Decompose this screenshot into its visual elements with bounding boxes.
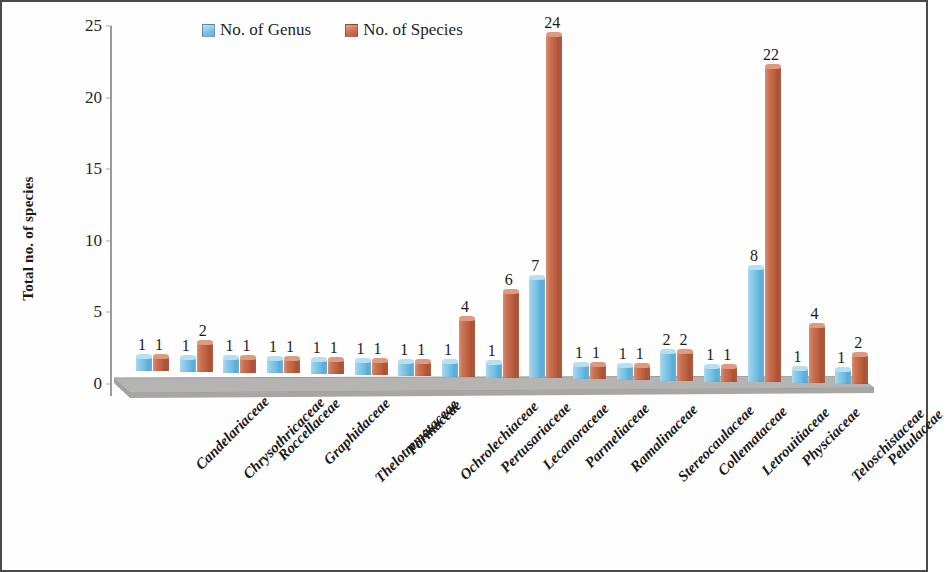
bar-genus[interactable] xyxy=(704,367,720,381)
bar-top-cap xyxy=(311,357,327,362)
bar-group: 822 xyxy=(746,26,791,384)
bar-top-cap xyxy=(398,359,414,364)
bar-top-cap xyxy=(180,355,196,360)
bar-species[interactable] xyxy=(240,358,256,372)
bar-group: 12 xyxy=(178,26,223,384)
bar-value-label: 8 xyxy=(742,248,766,264)
bar-group: 14 xyxy=(440,26,485,384)
bar-species[interactable] xyxy=(765,67,781,382)
bar-group: 11 xyxy=(615,26,660,384)
bar-top-cap xyxy=(546,32,562,37)
bar-series-container: 111211111111111416724111122118221412 xyxy=(114,26,874,384)
bar-genus[interactable] xyxy=(529,278,545,378)
bar-value-label: 1 xyxy=(322,340,346,356)
bar-group: 14 xyxy=(790,26,835,384)
bar-species[interactable] xyxy=(677,352,693,381)
bar-genus[interactable] xyxy=(398,362,414,376)
bar-species[interactable] xyxy=(415,362,431,376)
bar-genus[interactable] xyxy=(617,366,633,380)
bar-value-label: 1 xyxy=(584,345,608,361)
bar-species[interactable] xyxy=(546,35,562,379)
bar-top-cap xyxy=(240,355,256,360)
bar-species[interactable] xyxy=(197,343,213,372)
bar-value-label: 6 xyxy=(497,272,521,288)
bar-species[interactable] xyxy=(153,357,169,371)
y-axis-tick-label: 15 xyxy=(54,159,102,179)
bar-group: 11 xyxy=(571,26,616,384)
bar-genus[interactable] xyxy=(180,358,196,372)
bar-value-label: 2 xyxy=(846,335,870,351)
bar-top-cap xyxy=(223,355,239,360)
bar-top-cap xyxy=(529,275,545,280)
bar-genus[interactable] xyxy=(573,365,589,379)
bar-genus[interactable] xyxy=(792,369,808,383)
bar-value-label: 1 xyxy=(829,350,853,366)
bar-species[interactable] xyxy=(634,366,650,380)
bar-genus[interactable] xyxy=(223,358,239,372)
y-axis-tick-label: 20 xyxy=(54,88,102,108)
bar-top-cap xyxy=(590,362,606,367)
bar-genus[interactable] xyxy=(660,352,676,381)
bar-top-cap xyxy=(660,349,676,354)
y-axis-title: Total no. of species xyxy=(20,149,37,329)
bar-genus[interactable] xyxy=(311,360,327,374)
bar-genus[interactable] xyxy=(835,370,851,384)
bar-genus[interactable] xyxy=(136,357,152,371)
bar-top-cap xyxy=(748,265,764,270)
bar-top-cap xyxy=(704,364,720,369)
bar-genus[interactable] xyxy=(748,268,764,383)
bar-value-label: 1 xyxy=(147,337,171,353)
bar-top-cap xyxy=(328,357,344,362)
bar-value-label: 1 xyxy=(174,338,198,354)
bar-species[interactable] xyxy=(459,319,475,376)
bar-top-cap xyxy=(459,316,475,321)
bar-value-label: 1 xyxy=(278,339,302,355)
bar-top-cap xyxy=(486,360,502,365)
bar-top-cap xyxy=(153,354,169,359)
bar-species[interactable] xyxy=(809,326,825,383)
bar-group: 11 xyxy=(309,26,354,384)
bar-top-cap xyxy=(284,356,300,361)
bar-value-label: 1 xyxy=(628,346,652,362)
bar-group: 16 xyxy=(484,26,529,384)
y-axis-tick-label: 5 xyxy=(54,302,102,322)
y-axis-tick-label: 10 xyxy=(54,231,102,251)
bar-value-label: 22 xyxy=(759,47,783,63)
bar-value-label: 24 xyxy=(540,15,564,31)
x-axis-category-label: Porinaceae xyxy=(403,397,465,459)
bar-value-label: 7 xyxy=(523,258,547,274)
bar-top-cap xyxy=(136,354,152,359)
bar-value-label: 1 xyxy=(715,347,739,363)
bar-value-label: 1 xyxy=(436,342,460,358)
bar-value-label: 1 xyxy=(409,342,433,358)
bar-top-cap xyxy=(721,364,737,369)
bar-species[interactable] xyxy=(284,359,300,373)
bar-value-label: 4 xyxy=(803,306,827,322)
bar-top-cap xyxy=(617,363,633,368)
bar-top-cap xyxy=(634,363,650,368)
bar-species[interactable] xyxy=(721,367,737,381)
bar-top-cap xyxy=(197,340,213,345)
bar-group: 11 xyxy=(702,26,747,384)
bar-top-cap xyxy=(765,64,781,69)
bar-species[interactable] xyxy=(372,361,388,375)
bar-group: 11 xyxy=(134,26,179,384)
bar-value-label: 2 xyxy=(191,323,215,339)
bar-species[interactable] xyxy=(852,355,868,384)
bar-species[interactable] xyxy=(590,365,606,379)
bar-genus[interactable] xyxy=(267,359,283,373)
y-axis-tick-label: 25 xyxy=(54,16,102,36)
bar-group: 724 xyxy=(527,26,572,384)
bar-species[interactable] xyxy=(503,292,519,378)
bar-group: 11 xyxy=(221,26,266,384)
bar-top-cap xyxy=(852,352,868,357)
y-axis-tick-label: 0 xyxy=(54,374,102,394)
bar-top-cap xyxy=(442,359,458,364)
bar-genus[interactable] xyxy=(486,363,502,377)
bar-species[interactable] xyxy=(328,360,344,374)
bar-top-cap xyxy=(809,323,825,328)
bar-group: 11 xyxy=(396,26,441,384)
bar-top-cap xyxy=(835,367,851,372)
bar-genus[interactable] xyxy=(442,362,458,376)
bar-genus[interactable] xyxy=(355,361,371,375)
